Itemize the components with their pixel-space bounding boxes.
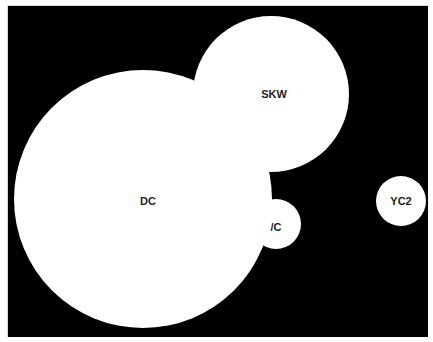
bubble-chart: DC SKW /C YC2 — [0, 0, 433, 342]
bubble-label-yc2: YC2 — [390, 195, 411, 207]
bubble-label-dc: DC — [140, 195, 156, 207]
bubble-label-skw: SKW — [261, 88, 287, 100]
bubble-label-vc: /C — [271, 221, 282, 233]
